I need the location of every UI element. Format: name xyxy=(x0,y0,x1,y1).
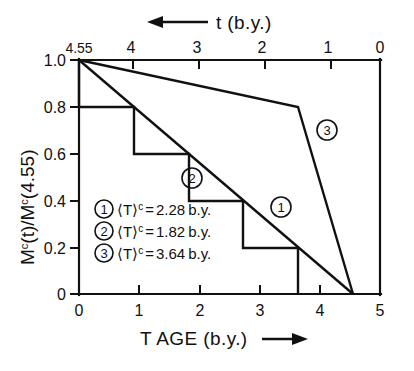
legend-entry-3: 3 ⟨T⟩c=3.64b.y. xyxy=(95,244,211,262)
legend-3-value: 3.64 xyxy=(156,245,185,262)
legend-3-superscript: c xyxy=(138,245,143,256)
legend-text-1: ⟨T⟩c=2.28b.y. xyxy=(117,201,211,219)
x-tick-label-1: 1 xyxy=(135,302,144,319)
legend-2-equals: = xyxy=(145,223,154,240)
x-axis-title: T AGE (b.y.) xyxy=(140,328,248,349)
top-axis-title: t (b.y.) xyxy=(216,12,272,33)
legend-marker-2-label: 2 xyxy=(100,224,107,239)
y-axis-title-m2: M xyxy=(17,205,38,221)
inplot-marker-3: 3 xyxy=(317,120,337,140)
y-tick-label-0-2: 0.2 xyxy=(44,240,66,257)
y-axis-title-end: (4.55) xyxy=(17,149,38,199)
legend-marker-3-label: 3 xyxy=(100,246,107,261)
top-axis-arrow-head-icon xyxy=(147,16,163,28)
top-tick-label-0: 4.55 xyxy=(65,40,92,56)
legend-text-2: ⟨T⟩c=1.82b.y. xyxy=(117,223,211,241)
x-tick-label-4: 4 xyxy=(316,302,325,319)
top-tick-label-5: 0 xyxy=(376,39,385,56)
x-tick-label-5: 5 xyxy=(376,302,385,319)
x-axis-title-group: T AGE (b.y.) xyxy=(140,328,308,349)
x-tick-label-0: 0 xyxy=(75,302,84,319)
top-tick-label-1: 4 xyxy=(127,39,136,56)
top-axis-ticks xyxy=(79,60,380,69)
top-tick-label-4: 1 xyxy=(324,39,333,56)
y-axis-title-group: Mc(t)/Mc(4.55) xyxy=(17,149,38,265)
legend-3-equals: = xyxy=(145,245,154,262)
legend-1-value: 2.28 xyxy=(156,201,185,218)
chart-figure: t (b.y.) 4.55 4 3 2 1 0 xyxy=(0,0,414,371)
y-axis-title: Mc(t)/Mc(4.55) xyxy=(17,149,38,265)
y-tick-label-0-6: 0.6 xyxy=(44,146,66,163)
legend-2-superscript: c xyxy=(138,223,143,234)
top-axis-title-group: t (b.y.) xyxy=(147,12,272,33)
x-tick-label-2: 2 xyxy=(196,302,205,319)
legend-text-3: ⟨T⟩c=3.64b.y. xyxy=(117,245,211,263)
chart-svg: t (b.y.) 4.55 4 3 2 1 0 xyxy=(0,0,414,371)
legend-1-units: b.y. xyxy=(188,201,211,218)
legend-3-units: b.y. xyxy=(188,245,211,262)
legend-2-value: 1.82 xyxy=(156,223,185,240)
x-axis-arrow-head-icon xyxy=(292,333,308,345)
left-axis-ticks xyxy=(70,60,79,294)
y-tick-label-0-8: 0.8 xyxy=(44,99,66,116)
bottom-axis-ticks xyxy=(79,285,380,294)
legend-marker-1-label: 1 xyxy=(100,202,107,217)
x-tick-label-3: 3 xyxy=(256,302,265,319)
y-tick-label-0: 0 xyxy=(57,286,66,303)
y-tick-label-0-4: 0.4 xyxy=(44,193,66,210)
x-tick-labels: 0 1 2 3 4 5 xyxy=(75,302,385,319)
legend-1-superscript: c xyxy=(138,201,143,212)
inplot-marker-3-label: 3 xyxy=(323,123,330,138)
legend-1-quantity: ⟨T⟩ xyxy=(117,201,138,218)
legend-2-units: b.y. xyxy=(188,223,211,240)
top-tick-label-3: 2 xyxy=(258,39,267,56)
legend-1-equals: = xyxy=(145,201,154,218)
top-tick-labels: 4.55 4 3 2 1 0 xyxy=(65,39,384,56)
inplot-marker-2-label: 2 xyxy=(188,171,195,186)
y-tick-label-1-0: 1.0 xyxy=(44,52,66,69)
y-axis-title-mid: (t)/ xyxy=(17,220,38,244)
inplot-marker-2: 2 xyxy=(182,168,202,188)
legend: 1 ⟨T⟩c=2.28b.y. 2 ⟨T⟩c=1.82b.y. 3 ⟨T⟩c=3… xyxy=(95,200,211,262)
inplot-marker-1-label: 1 xyxy=(277,200,284,215)
y-tick-labels: 1.0 0.8 0.6 0.4 0.2 0 xyxy=(44,52,66,303)
legend-3-quantity: ⟨T⟩ xyxy=(117,245,138,262)
y-axis-title-m1: M xyxy=(17,249,38,265)
top-tick-label-2: 3 xyxy=(193,39,202,56)
legend-2-quantity: ⟨T⟩ xyxy=(117,223,138,240)
inplot-marker-1: 1 xyxy=(271,197,291,217)
legend-entry-1: 1 ⟨T⟩c=2.28b.y. xyxy=(95,200,211,218)
legend-entry-2: 2 ⟨T⟩c=1.82b.y. xyxy=(95,222,211,240)
